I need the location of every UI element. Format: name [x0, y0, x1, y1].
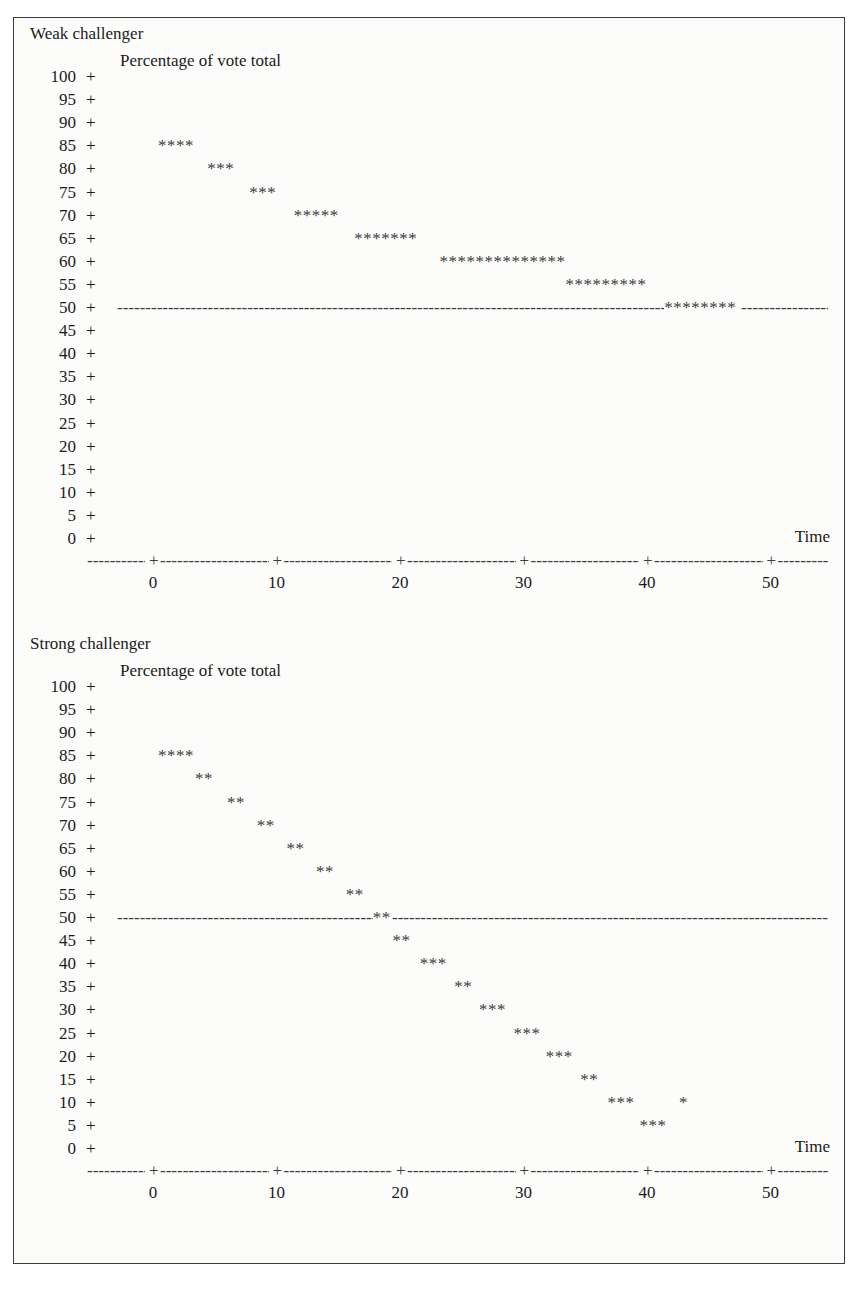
y-tick-label: 80	[24, 157, 76, 180]
plot-row: 45+	[14, 319, 844, 342]
y-tick-label: 20	[24, 1045, 76, 1068]
y-tick-mark: +	[86, 181, 96, 204]
x-axis-rule-segment: ---------------------	[407, 1161, 516, 1181]
data-marker-run: ***	[607, 1091, 634, 1114]
x-axis-rule-segment: ----------	[778, 551, 829, 571]
x-tick-label: 40	[627, 573, 667, 593]
y-tick-mark: +	[86, 837, 96, 860]
y-tick-mark: +	[86, 204, 96, 227]
x-tick-mark: +	[520, 551, 530, 571]
y-tick-mark: +	[86, 952, 96, 975]
data-marker-run: ***	[207, 157, 234, 180]
data-marker-run: **	[393, 929, 411, 952]
y-tick-label: 5	[24, 504, 76, 527]
y-tick-label: 15	[24, 1068, 76, 1091]
plot-row: 0+	[14, 1137, 844, 1160]
y-tick-mark: +	[86, 504, 96, 527]
y-tick-label: 15	[24, 458, 76, 481]
data-marker-run: ***	[514, 1022, 541, 1045]
x-tick-label: 0	[133, 573, 173, 593]
plot-row: 70+*****	[14, 204, 844, 227]
y-tick-label: 60	[24, 860, 76, 883]
plot-row: 80+**	[14, 767, 844, 790]
plot-row: 55+*********	[14, 273, 844, 296]
y-tick-label: 0	[24, 527, 76, 550]
plot-row: 20+***	[14, 1045, 844, 1068]
x-tick-mark: +	[643, 1161, 653, 1181]
panel-title-weak: Weak challenger	[30, 24, 143, 44]
x-tick-label: 40	[627, 1183, 667, 1203]
plot-row: 50+-------------------------------------…	[14, 296, 844, 319]
x-axis-rule-segment: ---------------------	[284, 1161, 393, 1181]
y-tick-label: 25	[24, 412, 76, 435]
y-tick-mark: +	[86, 250, 96, 273]
y-tick-label: 70	[24, 814, 76, 837]
y-tick-mark: +	[86, 88, 96, 111]
y-tick-mark: +	[86, 319, 96, 342]
x-axis-rule-segment: ---------------------	[284, 551, 393, 571]
plot-row: 85+****	[14, 134, 844, 157]
y-tick-mark: +	[86, 412, 96, 435]
x-tick-label: 20	[380, 1183, 420, 1203]
y-tick-mark: +	[86, 791, 96, 814]
data-marker-run: **	[373, 906, 391, 929]
y-tick-mark: +	[86, 157, 96, 180]
y-tick-mark: +	[86, 998, 96, 1021]
y-tick-label: 100	[24, 65, 76, 88]
x-tick-label: 30	[504, 1183, 544, 1203]
y-tick-mark: +	[86, 342, 96, 365]
y-tick-label: 10	[24, 481, 76, 504]
plot-row: 35+	[14, 365, 844, 388]
data-marker-run: ***	[640, 1114, 667, 1137]
y-tick-mark: +	[86, 365, 96, 388]
y-tick-mark: +	[86, 767, 96, 790]
y-tick-mark: +	[86, 860, 96, 883]
y-tick-mark: +	[86, 675, 96, 698]
y-tick-mark: +	[86, 1068, 96, 1091]
y-tick-mark: +	[86, 883, 96, 906]
x-axis-rule-segment: ----------	[778, 1161, 829, 1181]
data-marker-run: **	[227, 791, 245, 814]
x-tick-label: 50	[751, 573, 791, 593]
y-tick-mark: +	[86, 1045, 96, 1068]
x-axis-rule-segment: ---------------------	[407, 551, 516, 571]
y-tick-label: 40	[24, 342, 76, 365]
y-tick-label: 75	[24, 181, 76, 204]
plot-row: 0+	[14, 527, 844, 550]
x-tick-mark: +	[273, 1161, 283, 1181]
data-marker-run: ********	[664, 296, 736, 319]
y-tick-label: 85	[24, 134, 76, 157]
data-marker-run: **	[346, 883, 364, 906]
y-tick-label: 100	[24, 675, 76, 698]
x-axis-rule-segment: ---------------------	[531, 1161, 640, 1181]
y-tick-label: 95	[24, 88, 76, 111]
y-tick-mark: +	[86, 296, 96, 319]
y-tick-label: 50	[24, 296, 76, 319]
y-tick-label: 40	[24, 952, 76, 975]
y-tick-mark: +	[86, 906, 96, 929]
x-tick-mark: +	[273, 551, 283, 571]
plot-row: 25+***	[14, 1022, 844, 1045]
data-marker-run: **	[580, 1068, 598, 1091]
x-tick-mark: +	[520, 1161, 530, 1181]
y-tick-label: 90	[24, 721, 76, 744]
y-tick-label: 25	[24, 1022, 76, 1045]
y-tick-mark: +	[86, 975, 96, 998]
plot-row: 100+	[14, 65, 844, 88]
figure-frame: Weak challenger Percentage of vote total…	[13, 17, 845, 1264]
plot-row: 75+***	[14, 181, 844, 204]
plot-row: 60+**	[14, 860, 844, 883]
data-marker-run: *****	[294, 204, 339, 227]
plot-row: 60+**************	[14, 250, 844, 273]
plot-row: 90+	[14, 111, 844, 134]
x-axis-rule-segment: -----------	[87, 551, 145, 571]
x-axis-rule-segment: ---------------------	[160, 551, 269, 571]
data-marker-run: **	[454, 975, 472, 998]
plot-row: 20+	[14, 435, 844, 458]
data-marker-run: *	[679, 1091, 688, 1114]
x-axis-rule-segment: ---------------------	[160, 1161, 269, 1181]
plot-row: 40+***	[14, 952, 844, 975]
y-tick-label: 45	[24, 319, 76, 342]
plot-row: 85+****	[14, 744, 844, 767]
y-tick-label: 35	[24, 975, 76, 998]
